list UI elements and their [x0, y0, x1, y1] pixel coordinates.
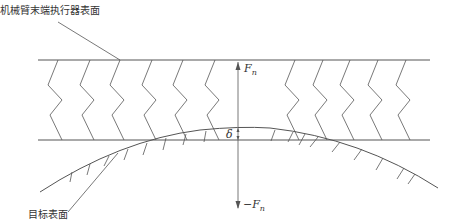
spring-4: [142, 60, 156, 140]
spring-8: [313, 60, 327, 140]
effector-leader-line: [58, 22, 120, 60]
target-surface-label: 目标表面: [28, 206, 68, 221]
force-negative-label: −Fn: [243, 198, 265, 213]
arrow-down-icon: [236, 201, 241, 209]
spring-6: [205, 60, 219, 140]
spring-9: [340, 60, 354, 140]
delta-arrow-up-icon: [237, 128, 240, 132]
spring-3: [110, 60, 124, 140]
spring-7: [285, 60, 299, 140]
effector-surface-label: 机械臂末端执行器表面: [0, 2, 100, 17]
deformation-label: δ: [226, 128, 233, 141]
contact-diagram: [0, 0, 457, 223]
arrow-up-icon: [236, 62, 241, 70]
target-hatching: [70, 130, 415, 184]
spring-2: [80, 60, 94, 140]
spring-5: [173, 60, 187, 140]
spring-1: [48, 60, 62, 140]
force-positive-label: Fn: [244, 62, 257, 77]
delta-arrow-down-icon: [237, 136, 240, 140]
spring-10: [368, 60, 382, 140]
spring-11: [396, 60, 410, 140]
